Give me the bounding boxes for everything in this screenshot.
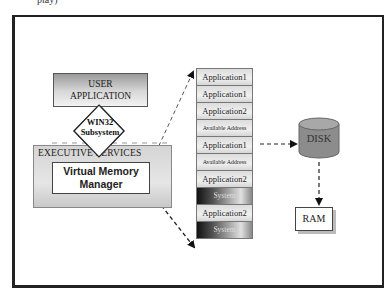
memory-cell-available: Available Address (196, 120, 253, 137)
memory-cell: Application2 (196, 205, 253, 222)
subsystem-label: WIN32 Subsystem (76, 117, 124, 137)
memory-cell-system: System (196, 222, 253, 239)
ram-box: RAM (295, 207, 333, 231)
memory-cell: Application2 (196, 171, 253, 188)
memory-cell: Application1 (196, 68, 253, 86)
disk-label: DISK (299, 133, 339, 144)
memory-cell-system: System (196, 188, 253, 205)
memory-cell: Application2 (196, 103, 253, 120)
subsystem-line1: WIN32 (76, 117, 124, 127)
memory-stack: Application1 Application1 Application2 A… (196, 68, 253, 239)
subsystem-line2: Subsystem (76, 127, 124, 137)
memory-cell: Application1 (196, 86, 253, 103)
memory-cell-available: Available Address (196, 154, 253, 171)
memory-cell: Application1 (196, 137, 253, 154)
